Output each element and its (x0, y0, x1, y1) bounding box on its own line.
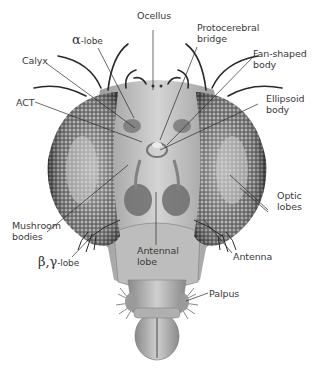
label-optic-lobes-line2: lobes (277, 201, 302, 212)
label-palpus: Palpus (209, 288, 239, 299)
fly-head-diagram: Ocellus Protocerebral bridge α-lobe Caly… (0, 0, 313, 380)
label-beta-gamma-symbol: β,γ (38, 254, 57, 269)
label-mushroom-bodies: Mushroom bodies (12, 220, 61, 242)
label-antennal-lobe-line1: Antennal (137, 245, 179, 256)
label-act: ACT (16, 97, 34, 108)
label-fan-shaped-body-line1: Fan-shaped (253, 48, 307, 59)
label-fan-shaped-body: Fan-shaped body (253, 48, 307, 70)
label-beta-gamma-lobe: β,γ-lobe (38, 256, 79, 269)
label-beta-gamma-suffix: -lobe (57, 258, 79, 268)
label-antenna: Antenna (233, 251, 272, 262)
label-protocerebral-bridge: Protocerebral bridge (197, 22, 259, 44)
label-ellipsoid-body-line1: Ellipsoid (266, 93, 304, 104)
label-antennal-lobe: Antennal lobe (137, 245, 179, 267)
label-alpha-lobe: α-lobe (72, 34, 103, 47)
label-ellipsoid-body-line2: body (266, 104, 304, 115)
label-calyx: Calyx (22, 55, 48, 66)
label-protocerebral-bridge-line2: bridge (197, 33, 259, 44)
label-protocerebral-bridge-line1: Protocerebral (197, 22, 259, 33)
label-optic-lobes-line1: Optic (277, 190, 302, 201)
label-alpha-suffix: -lobe (81, 36, 103, 46)
label-optic-lobes: Optic lobes (277, 190, 302, 212)
label-mushroom-bodies-line2: bodies (12, 231, 61, 242)
label-fan-shaped-body-line2: body (253, 59, 307, 70)
label-ellipsoid-body: Ellipsoid body (266, 93, 304, 115)
label-alpha-symbol: α (72, 32, 81, 47)
label-ocellus: Ocellus (137, 10, 171, 21)
label-mushroom-bodies-line1: Mushroom (12, 220, 61, 231)
label-antennal-lobe-line2: lobe (137, 256, 179, 267)
